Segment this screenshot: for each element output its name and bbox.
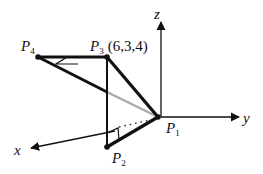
z-axis-label: z xyxy=(153,6,160,22)
label-p3: P3(6,3,4) xyxy=(89,38,148,56)
segment-p1-p2 xyxy=(107,117,158,147)
point-p2 xyxy=(104,144,110,150)
y-axis-label: y xyxy=(241,110,250,126)
segment-p3-p1 xyxy=(107,57,158,117)
point-p1 xyxy=(155,114,161,120)
x-axis-label: x xyxy=(13,142,21,158)
segment-p4-p1 xyxy=(38,57,107,92)
segment-p4-p1-hidden xyxy=(107,92,158,117)
label-p2: P2 xyxy=(111,150,126,168)
right-angle-marker-base xyxy=(107,128,119,140)
label-p4: P4 xyxy=(20,38,35,56)
diagram-canvas: z y x P4 P3(6,3,4) P1 P2 xyxy=(0,0,263,174)
point-p3 xyxy=(104,54,110,60)
x-axis xyxy=(31,131,115,148)
label-p1: P1 xyxy=(165,120,180,138)
point-p4 xyxy=(35,54,41,60)
